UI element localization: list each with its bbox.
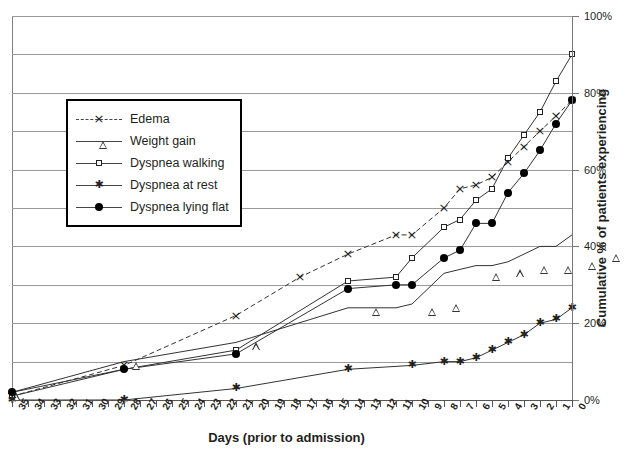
x-axis-tick: [220, 400, 221, 407]
marker-circle-icon: [520, 169, 528, 177]
marker-square-icon: [537, 109, 543, 115]
x-axis-tick: [476, 400, 477, 407]
x-axis-tick-label: 6: [480, 401, 492, 411]
x-axis-tick: [268, 400, 269, 407]
x-axis-tick: [28, 400, 29, 407]
x-axis-tick: [12, 400, 13, 407]
marker-square-icon: [521, 132, 527, 138]
x-axis-tick: [60, 400, 61, 407]
legend-swatch: [76, 199, 122, 215]
marker-triangle-icon: [564, 266, 572, 291]
legend-item[interactable]: ✱Dyspnea at rest: [68, 174, 240, 196]
x-axis-tick: [444, 400, 445, 407]
x-axis-tick: [236, 400, 237, 407]
marker-square-icon: [473, 197, 479, 203]
marker-triangle-icon: [492, 273, 500, 298]
marker-square-icon: [457, 217, 463, 223]
y-axis-tick: [572, 16, 579, 17]
series-line-weight-gain: [12, 235, 572, 392]
legend-item[interactable]: Dyspnea walking: [68, 152, 240, 174]
marker-circle-icon: [440, 254, 448, 262]
marker-circle-icon: [456, 246, 464, 254]
y-axis-tick: [572, 170, 579, 171]
legend-label: Dyspnea at rest: [130, 178, 218, 192]
x-axis-tick-label: 7: [464, 401, 476, 411]
x-axis-tick: [460, 400, 461, 407]
x-axis-tick: [252, 400, 253, 407]
y-axis-tick: [572, 93, 579, 94]
marker-square-icon: [345, 278, 351, 284]
y-axis-tick: [572, 323, 579, 324]
marker-circle-icon: [8, 388, 16, 396]
x-axis-tick: [508, 400, 509, 407]
marker-circle-icon: [488, 219, 496, 227]
legend-label: Dyspnea lying flat: [130, 200, 229, 214]
marker-square-icon: [505, 155, 511, 161]
x-axis-tick: [540, 400, 541, 407]
x-axis-tick: [572, 400, 573, 407]
x-axis-tick-label: 4: [512, 401, 524, 411]
x-axis-tick: [492, 400, 493, 407]
marker-circle-icon: [95, 203, 103, 211]
legend-label: Weight gain: [130, 134, 196, 148]
marker-triangle-icon: [540, 266, 548, 291]
marker-circle-icon: [504, 189, 512, 197]
x-axis-tick: [172, 400, 173, 407]
legend-swatch: ✱: [76, 177, 122, 193]
marker-triangle-icon: [372, 308, 380, 333]
x-axis-tick: [156, 400, 157, 407]
y-axis-tick: [572, 246, 579, 247]
x-axis-tick: [396, 400, 397, 407]
marker-circle-icon: [392, 281, 400, 289]
legend-item[interactable]: Weight gain: [68, 130, 240, 152]
x-axis-tick: [300, 400, 301, 407]
x-axis-tick: [364, 400, 365, 407]
x-axis-tick-label: 5: [496, 401, 508, 411]
x-axis-tick-label: 1: [560, 401, 572, 411]
marker-triangle-icon: [452, 304, 460, 329]
x-axis-tick-label: 9: [432, 401, 444, 411]
legend-label: Edema: [130, 112, 170, 126]
marker-circle-icon: [120, 365, 128, 373]
x-axis-tick: [380, 400, 381, 407]
x-axis-tick: [124, 400, 125, 407]
x-axis-tick: [332, 400, 333, 407]
legend-item[interactable]: Dyspnea lying flat: [68, 196, 240, 218]
marker-circle-icon: [552, 120, 560, 128]
marker-circle-icon: [536, 146, 544, 154]
marker-circle-icon: [472, 219, 480, 227]
legend-label: Dyspnea walking: [130, 156, 225, 170]
x-axis-tick: [412, 400, 413, 407]
x-axis-tick: [348, 400, 349, 407]
marker-square-icon: [441, 224, 447, 230]
marker-triangle-icon: [132, 362, 140, 387]
x-axis-tick: [108, 400, 109, 407]
x-axis-tick: [140, 400, 141, 407]
x-axis-tick-label: 2: [544, 401, 556, 411]
marker-square-icon: [409, 255, 415, 261]
legend-item[interactable]: ×Edema: [68, 108, 240, 130]
marker-square-icon: [393, 274, 399, 280]
marker-triangle-icon: [516, 269, 524, 294]
x-axis-tick: [428, 400, 429, 407]
marker-triangle-icon: [252, 342, 260, 367]
x-axis-tick-label: 8: [448, 401, 460, 411]
x-axis-tick: [204, 400, 205, 407]
x-axis-tick: [284, 400, 285, 407]
marker-triangle-icon: [428, 308, 436, 333]
marker-circle-icon: [232, 350, 240, 358]
marker-square-icon: [96, 160, 102, 166]
x-axis-tick: [556, 400, 557, 407]
legend-swatch: ×: [76, 111, 122, 127]
x-axis-tick: [92, 400, 93, 407]
x-axis-tick: [316, 400, 317, 407]
x-axis-tick: [44, 400, 45, 407]
marker-circle-icon: [344, 285, 352, 293]
marker-square-icon: [553, 78, 559, 84]
chart-legend: ×EdemaWeight gainDyspnea walking✱Dyspnea…: [66, 99, 242, 227]
legend-swatch: [76, 133, 122, 149]
x-axis-tick: [76, 400, 77, 407]
x-axis-title: Days (prior to admission): [0, 430, 573, 445]
marker-square-icon: [489, 186, 495, 192]
y-axis-line: [572, 16, 573, 400]
